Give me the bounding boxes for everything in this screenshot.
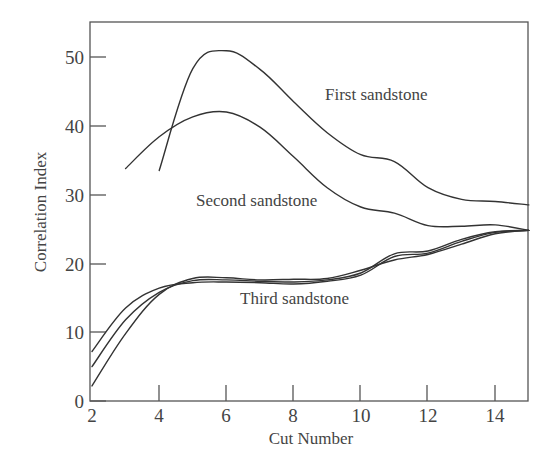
y-tick-label: 10 <box>65 322 84 343</box>
x-tick-label: 14 <box>486 405 506 426</box>
third-sandstone-curve <box>92 230 529 386</box>
x-axis-title: Cut Number <box>269 429 354 448</box>
correlation-chart: 0 10 20 30 40 50 2 4 6 8 10 12 14 Cut Nu… <box>0 0 556 471</box>
label-second-sandstone: Second sandstone <box>196 191 317 210</box>
x-tick-label: 8 <box>288 405 298 426</box>
y-axis-title: Correlation Index <box>31 151 50 272</box>
label-first-sandstone: First sandstone <box>325 85 427 104</box>
label-third-sandstone: Third sandstone <box>240 289 349 308</box>
y-axis: 0 10 20 30 40 50 <box>65 47 106 412</box>
series-curves <box>92 51 529 386</box>
second-sandstone-curve <box>126 111 529 230</box>
x-tick-label: 6 <box>221 405 231 426</box>
y-tick-label: 40 <box>65 116 84 137</box>
plot-frame <box>90 22 528 401</box>
y-tick-label: 0 <box>75 391 85 412</box>
x-tick-label: 2 <box>87 405 97 426</box>
y-tick-label: 30 <box>65 185 84 206</box>
first-sandstone-curve <box>159 51 529 205</box>
x-tick-label: 4 <box>154 405 164 426</box>
y-tick-label: 50 <box>65 47 84 68</box>
x-tick-label: 10 <box>352 405 371 426</box>
y-tick-label: 20 <box>65 254 84 275</box>
x-axis: 2 4 6 8 10 12 14 <box>87 385 505 426</box>
x-tick-label: 12 <box>419 405 438 426</box>
